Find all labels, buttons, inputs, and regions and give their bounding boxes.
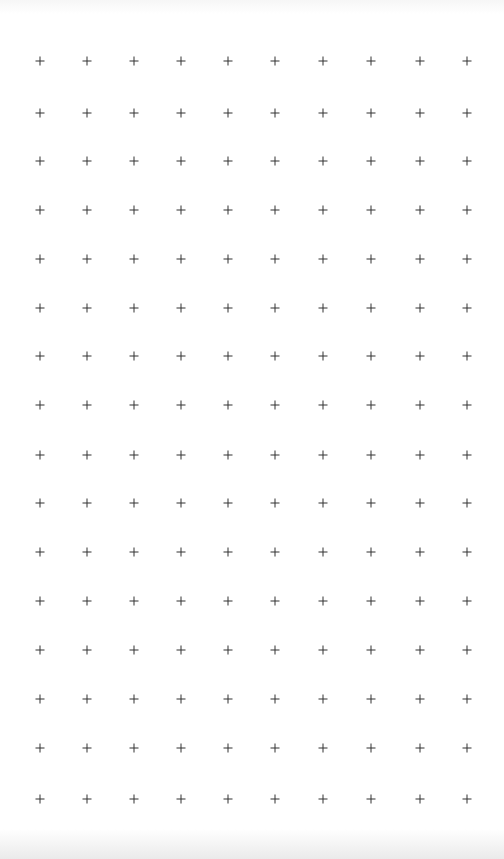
plus-icon — [367, 795, 376, 804]
plus-icon — [36, 157, 45, 166]
plus-icon — [367, 304, 376, 313]
plus-icon — [367, 206, 376, 215]
plus-icon — [319, 304, 328, 313]
plus-icon — [130, 548, 139, 557]
plus-icon — [463, 352, 472, 361]
plus-icon — [36, 548, 45, 557]
plus-icon — [463, 451, 472, 460]
plus-icon — [36, 255, 45, 264]
plus-icon — [36, 451, 45, 460]
plus-icon — [177, 157, 186, 166]
plus-icon — [367, 255, 376, 264]
plus-icon — [271, 57, 280, 66]
plus-icon — [177, 304, 186, 313]
plus-icon — [319, 597, 328, 606]
plus-icon — [177, 206, 186, 215]
plus-icon — [36, 499, 45, 508]
plus-icon — [319, 352, 328, 361]
plus-icon — [130, 597, 139, 606]
plus-icon — [367, 646, 376, 655]
plus-icon — [83, 304, 92, 313]
plus-icon — [83, 157, 92, 166]
plus-icon — [463, 695, 472, 704]
plus-icon — [36, 401, 45, 410]
plus-icon — [416, 206, 425, 215]
plus-icon — [177, 795, 186, 804]
plus-icon — [416, 744, 425, 753]
plus-icon — [130, 255, 139, 264]
plus-icon — [224, 304, 233, 313]
plus-icon — [177, 499, 186, 508]
plus-icon — [224, 795, 233, 804]
plus-icon — [224, 451, 233, 460]
plus-icon — [463, 795, 472, 804]
plus-icon — [177, 548, 186, 557]
plus-icon — [224, 157, 233, 166]
plus-icon — [416, 401, 425, 410]
plus-icon — [130, 744, 139, 753]
plus-icon — [83, 548, 92, 557]
plus-icon — [36, 795, 45, 804]
plus-icon — [177, 109, 186, 118]
plus-icon — [83, 451, 92, 460]
plus-icon — [319, 646, 328, 655]
plus-icon — [36, 57, 45, 66]
plus-icon — [367, 57, 376, 66]
plus-icon — [367, 695, 376, 704]
plus-icon — [367, 499, 376, 508]
plus-icon — [177, 695, 186, 704]
plus-icon — [224, 57, 233, 66]
plus-icon — [367, 157, 376, 166]
plus-icon — [367, 109, 376, 118]
plus-icon — [83, 695, 92, 704]
plus-icon — [416, 255, 425, 264]
plus-icon — [224, 352, 233, 361]
bottom-shade — [0, 829, 504, 859]
plus-icon — [271, 255, 280, 264]
plus-icon — [224, 744, 233, 753]
plus-icon — [83, 352, 92, 361]
plus-icon — [416, 695, 425, 704]
plus-icon — [130, 499, 139, 508]
plus-icon — [271, 695, 280, 704]
plus-icon — [130, 157, 139, 166]
plus-icon — [83, 499, 92, 508]
plus-icon — [36, 646, 45, 655]
plus-icon — [463, 304, 472, 313]
plus-icon — [416, 352, 425, 361]
plus-icon — [224, 499, 233, 508]
plus-icon — [463, 401, 472, 410]
plus-icon — [83, 795, 92, 804]
plus-icon — [271, 597, 280, 606]
plus-icon — [177, 255, 186, 264]
plus-icon — [271, 401, 280, 410]
plus-icon — [130, 795, 139, 804]
plus-icon — [271, 304, 280, 313]
plus-icon — [271, 206, 280, 215]
plus-icon — [367, 451, 376, 460]
plus-icon — [36, 597, 45, 606]
plus-icon — [36, 744, 45, 753]
plus-icon — [130, 109, 139, 118]
plus-icon — [416, 548, 425, 557]
plus-icon — [271, 499, 280, 508]
plus-icon — [416, 597, 425, 606]
plus-icon — [271, 744, 280, 753]
plus-icon — [319, 255, 328, 264]
plus-icon — [319, 744, 328, 753]
plus-icon — [83, 206, 92, 215]
plus-icon — [463, 255, 472, 264]
plus-icon — [224, 401, 233, 410]
plus-icon — [416, 795, 425, 804]
plus-icon — [416, 451, 425, 460]
plus-icon — [36, 695, 45, 704]
plus-icon — [83, 109, 92, 118]
plus-icon — [319, 548, 328, 557]
plus-icon — [36, 206, 45, 215]
plus-icon — [224, 597, 233, 606]
plus-icon — [177, 401, 186, 410]
plus-icon — [319, 109, 328, 118]
plus-icon — [367, 597, 376, 606]
plus-icon — [271, 646, 280, 655]
plus-icon — [130, 57, 139, 66]
